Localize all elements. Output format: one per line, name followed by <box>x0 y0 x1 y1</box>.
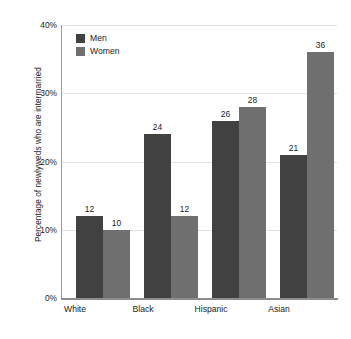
bar-value-black-men: 24 <box>153 122 162 132</box>
bar-hispanic-women: 28 <box>239 107 266 298</box>
x-axis-baseline <box>61 298 338 300</box>
bar-value-asian-men: 21 <box>289 143 298 153</box>
legend-swatch-men-icon <box>76 34 85 43</box>
legend-label-men: Men <box>90 34 107 43</box>
bar-value-white-women: 10 <box>112 218 121 228</box>
y-tick-label-0: 0% <box>17 293 57 303</box>
bar-value-white-men: 12 <box>85 204 94 214</box>
bar-black-men: 24 <box>144 134 171 298</box>
bar-hispanic-men: 26 <box>212 121 239 298</box>
legend-item-women: Women <box>76 47 119 56</box>
bar-asian-women: 36 <box>307 52 334 298</box>
y-axis-title: Percentage of newlyweds who are intermar… <box>34 20 43 290</box>
y-tick-label-40: 40% <box>17 20 57 30</box>
bar-group-white: 12 10 <box>76 25 130 298</box>
bar-group-asian: 21 36 <box>280 25 334 298</box>
x-tick-label-asian: Asian <box>234 304 324 314</box>
bar-value-hispanic-women: 28 <box>248 95 257 105</box>
legend-label-women: Women <box>90 47 119 56</box>
bar-white-men: 12 <box>76 216 103 298</box>
y-tick-label-10: 10% <box>17 225 57 235</box>
bar-group-black: 24 12 <box>144 25 198 298</box>
bar-black-women: 12 <box>171 216 198 298</box>
bar-value-asian-women: 36 <box>316 40 325 50</box>
y-tick-label-20: 20% <box>17 157 57 167</box>
legend-item-men: Men <box>76 34 119 43</box>
bar-value-hispanic-men: 26 <box>221 109 230 119</box>
legend: Men Women <box>76 34 119 60</box>
legend-swatch-women-icon <box>76 47 85 56</box>
bar-chart: Percentage of newlyweds who are intermar… <box>0 0 351 339</box>
bar-white-women: 10 <box>103 230 130 298</box>
bar-group-hispanic: 26 28 <box>212 25 266 298</box>
bar-asian-men: 21 <box>280 155 307 298</box>
y-tick-label-30: 30% <box>17 88 57 98</box>
bars-layer: 12 10 24 12 26 2 <box>62 25 337 298</box>
plot-area: 12 10 24 12 26 2 <box>61 25 337 298</box>
bar-value-black-women: 12 <box>180 204 189 214</box>
